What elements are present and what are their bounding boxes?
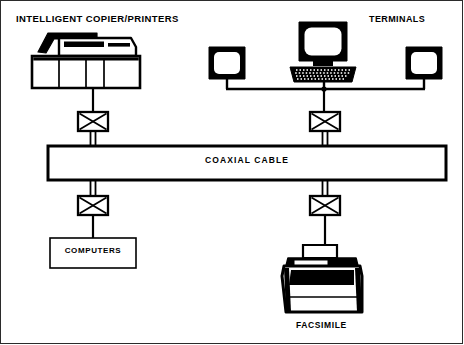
facsimile-label: FACSIMILE: [296, 320, 347, 330]
tap-facsimile: [310, 180, 340, 245]
copier-printer-icon: [32, 33, 140, 112]
workstation-center-icon: [290, 22, 356, 89]
tap-terminals: [310, 112, 340, 146]
monitor-left-icon: [209, 47, 245, 89]
network-diagram-canvas: INTELLIGENT COPIER/PRINTERS TERMINALS CO…: [0, 0, 464, 345]
monitor-right-icon: [406, 47, 442, 89]
terminal-cluster-icon: [209, 22, 442, 112]
tap-copier: [78, 112, 108, 146]
terminals-label: TERMINALS: [369, 14, 425, 24]
tap-computers: [78, 180, 108, 238]
diagram-graphics: [0, 0, 464, 345]
facsimile-machine-icon: [282, 245, 362, 312]
copiers-label: INTELLIGENT COPIER/PRINTERS: [16, 13, 179, 24]
computers-label: COMPUTERS: [50, 246, 136, 255]
coaxial-cable-label: COAXIAL CABLE: [48, 155, 446, 165]
